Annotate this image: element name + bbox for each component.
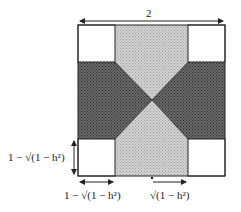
width-label: 2 bbox=[146, 8, 152, 19]
corner-bottom-left bbox=[78, 139, 115, 176]
left-height-label: 1 − √(1 − h²) bbox=[8, 152, 65, 163]
center-dot bbox=[151, 177, 153, 179]
square-diagram bbox=[0, 0, 241, 212]
corner-top-right bbox=[188, 25, 225, 62]
corner-top-left bbox=[78, 25, 115, 62]
corner-bottom-right bbox=[188, 139, 225, 176]
bottom-right-label: √(1 − h²) bbox=[150, 190, 189, 201]
bottom-left-label: 1 − √(1 − h²) bbox=[64, 190, 121, 201]
